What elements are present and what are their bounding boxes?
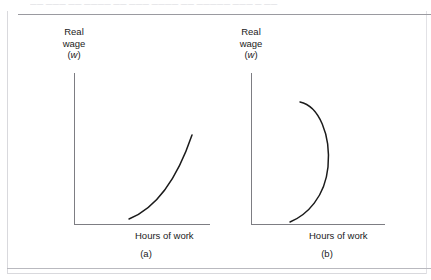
chart-panel-b: Real wage (w) Hours of work (b) (232, 22, 422, 262)
figure-frame-right-edge (426, 11, 427, 274)
scanned-header-text: —— ——— —— ———— —— ——— ———— —— ————— ——— … (30, 0, 360, 8)
panel-caption-b: (b) (232, 248, 422, 259)
curve-path-a (129, 135, 192, 219)
top-horizontal-rule (18, 14, 431, 15)
x-axis-label-b: Hours of work (309, 230, 368, 242)
y-axis-label-line3: (w) (206, 49, 296, 61)
y-axis-label-b: Real wage (w) (206, 26, 296, 61)
y-axis-label-line1: Real (206, 26, 296, 38)
labor-supply-curve-a (74, 73, 210, 225)
y-axis-label-line2: wage (29, 38, 119, 50)
y-axis-label-a: Real wage (w) (29, 26, 119, 61)
panel-caption-a: (a) (51, 248, 241, 259)
x-axis-label-a: Hours of work (135, 230, 194, 242)
curve-path-b (290, 102, 328, 222)
paren-close: ) (77, 49, 80, 60)
y-axis-label-line3: (w) (29, 49, 119, 61)
y-axis-label-line2: wage (206, 38, 296, 50)
y-axis-label-line1: Real (29, 26, 119, 38)
labor-supply-curve-b (251, 73, 385, 225)
bottom-horizontal-rule (7, 268, 431, 269)
plot-axes-a (74, 73, 210, 225)
paren-close: ) (254, 49, 257, 60)
plot-axes-b (251, 73, 385, 225)
